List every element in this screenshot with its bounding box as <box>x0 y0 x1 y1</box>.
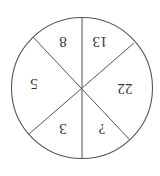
svg-text:8: 8 <box>59 34 67 50</box>
sector-label-22: 22 <box>118 81 133 97</box>
svg-text:3: 3 <box>59 121 67 137</box>
sector-circle-diagram: 8 13 22 ? 3 5 <box>0 0 160 176</box>
svg-text:?: ? <box>98 121 105 137</box>
sector-label-unknown: ? <box>98 121 105 137</box>
sector-label-5: 5 <box>30 76 38 92</box>
sector-label-13: 13 <box>93 34 108 50</box>
svg-text:22: 22 <box>118 81 133 97</box>
sector-label-3: 3 <box>59 121 67 137</box>
sector-label-8: 8 <box>59 34 67 50</box>
svg-text:13: 13 <box>93 34 108 50</box>
svg-text:5: 5 <box>30 76 38 92</box>
